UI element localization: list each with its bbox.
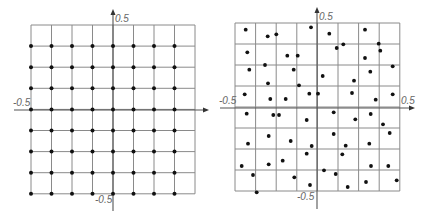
sample-point [173, 107, 177, 111]
sample-point [289, 139, 293, 143]
x-axis-arrow-icon [409, 106, 415, 111]
sample-point [152, 192, 156, 196]
sample-point [388, 131, 392, 135]
sample-point [50, 129, 54, 133]
sample-point [111, 107, 115, 111]
axis-label-x-right: 0.5 [401, 95, 415, 106]
sample-point [152, 86, 156, 90]
sample-point [378, 49, 382, 53]
sample-point [247, 68, 251, 72]
sample-point [364, 180, 368, 184]
sample-point [292, 175, 296, 179]
sample-point [91, 171, 95, 175]
sampling-diagram: 0.5-0.5-0.5 0.5-0.50.5-0.5 [0, 0, 427, 218]
axis-label-y-bottom: -0.5 [297, 191, 315, 202]
sample-point [173, 44, 177, 48]
sample-point [91, 129, 95, 133]
sample-point [246, 142, 250, 146]
sample-point [334, 172, 338, 176]
sample-point [308, 183, 312, 187]
sample-point [111, 44, 115, 48]
sample-point [111, 65, 115, 69]
sample-point [111, 171, 115, 175]
sample-point [381, 122, 385, 126]
sample-point [395, 178, 399, 182]
sample-point [266, 34, 270, 38]
sample-point [244, 28, 248, 32]
sample-point [29, 192, 33, 196]
sample-point [50, 44, 54, 48]
sample-point [29, 107, 33, 111]
sample-point [70, 129, 74, 133]
sample-point [271, 113, 275, 117]
sample-point [277, 113, 281, 117]
sample-point [297, 83, 301, 87]
sample-point [132, 107, 136, 111]
sample-point [132, 150, 136, 154]
sample-point [132, 65, 136, 69]
sample-point [369, 164, 373, 168]
sample-point [50, 192, 54, 196]
sample-point [386, 164, 390, 168]
sample-point [344, 144, 348, 148]
sample-point [368, 70, 372, 74]
sample-point [316, 92, 320, 96]
sample-point [152, 107, 156, 111]
sample-point [111, 86, 115, 90]
sample-point [91, 107, 95, 111]
sample-point [111, 129, 115, 133]
axis-label-y-bottom: -0.5 [95, 194, 113, 205]
sample-point [111, 150, 115, 154]
sample-point [363, 56, 367, 60]
sample-point [335, 46, 339, 50]
sample-point [266, 81, 270, 85]
sample-point [327, 32, 331, 36]
sample-point [352, 79, 356, 83]
sample-point [350, 91, 354, 95]
sample-point [391, 64, 395, 68]
sample-point [285, 54, 289, 58]
sample-point [240, 164, 244, 168]
sample-point [267, 134, 271, 138]
sample-point [374, 98, 378, 102]
sample-point [251, 173, 255, 177]
sample-point [152, 150, 156, 154]
sample-point [132, 86, 136, 90]
sample-point [307, 92, 311, 96]
sample-point [367, 142, 371, 146]
sample-point [70, 150, 74, 154]
sample-point [132, 192, 136, 196]
sample-point [70, 65, 74, 69]
sample-point [353, 117, 357, 121]
sample-point [263, 63, 267, 67]
sample-point [332, 132, 336, 136]
sample-point [70, 107, 74, 111]
sample-point [267, 162, 271, 166]
sample-point [70, 44, 74, 48]
sample-point [29, 171, 33, 175]
sample-point [346, 185, 350, 189]
sample-point [322, 168, 326, 172]
sample-point [50, 107, 54, 111]
sample-point [91, 150, 95, 154]
sample-point [173, 150, 177, 154]
sample-point [29, 65, 33, 69]
sample-point [132, 129, 136, 133]
left-panel-regular-grid: 0.5-0.5-0.5 [13, 9, 209, 211]
sample-point [173, 171, 177, 175]
x-axis-arrow-icon [203, 108, 209, 113]
sample-point [245, 50, 249, 54]
sample-point [268, 97, 272, 101]
sample-point [50, 86, 54, 90]
sample-point [91, 65, 95, 69]
sample-point [152, 171, 156, 175]
sample-point [377, 42, 381, 46]
sample-point [281, 159, 285, 163]
sample-point [305, 118, 309, 122]
sample-point [91, 86, 95, 90]
sample-point [132, 44, 136, 48]
sample-point [296, 54, 300, 58]
axis-label-y-top: 0.5 [319, 11, 333, 22]
sample-point [245, 112, 249, 116]
sample-point [29, 86, 33, 90]
